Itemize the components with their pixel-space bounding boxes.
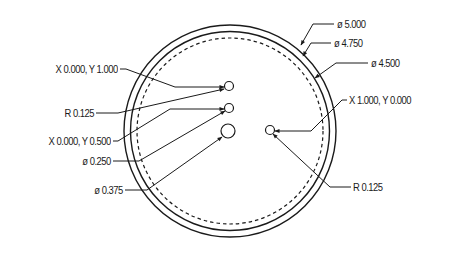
label-dia-5000: ø 5.000 <box>337 18 366 30</box>
label-r-right: R 0.125 <box>353 181 383 193</box>
label-dia-4750: ø 4.750 <box>334 37 363 49</box>
label-dia-0375: ø 0.375 <box>94 184 123 196</box>
leader-r-right <box>273 134 351 187</box>
leader-xy-mid <box>113 109 224 141</box>
hole-right <box>266 126 275 135</box>
label-dia-4500: ø 4.500 <box>371 57 400 69</box>
label-r-top: R 0.125 <box>64 107 94 119</box>
hole-center <box>221 124 235 138</box>
hole-top <box>225 82 234 91</box>
part-drawing <box>0 0 450 258</box>
leader-dia-4500 <box>315 63 368 78</box>
leader-dia-5000 <box>301 24 334 45</box>
leader-dia-4750 <box>303 43 331 56</box>
label-xy-top: X 0.000, Y 1.000 <box>56 63 118 75</box>
label-xy-right: X 1.000, Y 0.000 <box>349 94 411 106</box>
label-dia-0250: ø 0.250 <box>82 155 111 167</box>
label-xy-mid: X 0.000, Y 0.500 <box>49 135 111 147</box>
leader-dia-0250 <box>113 111 225 161</box>
leader-dia-0375 <box>125 137 222 190</box>
hole-mid <box>225 104 234 113</box>
